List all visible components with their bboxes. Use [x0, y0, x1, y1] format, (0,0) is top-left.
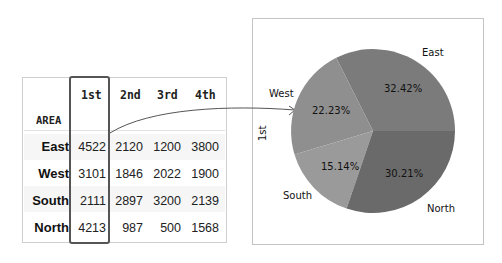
pct-label-east: 32.42% [384, 83, 422, 94]
pct-label-south: 15.14% [321, 161, 359, 172]
slice-label-south: South [283, 190, 312, 201]
slice-label-north: North [427, 203, 455, 214]
slice-label-east: East [422, 47, 444, 58]
pct-label-north: 30.21% [385, 168, 423, 179]
pie-chart: 32.42% 22.23% 15.14% 30.21% East West So… [0, 0, 502, 263]
pct-label-west: 22.23% [312, 105, 350, 116]
slice-label-west: West [269, 88, 294, 99]
y-axis-label: 1st [257, 125, 268, 141]
